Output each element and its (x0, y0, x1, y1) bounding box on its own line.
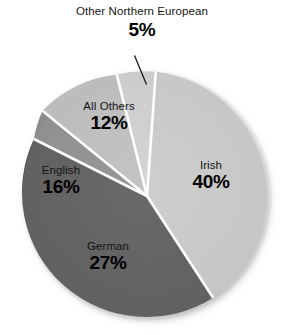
pie-slices-group (22, 71, 272, 320)
pie-chart-graphic (0, 0, 284, 335)
pie-chart: Other Northern European 5% All Others 12… (0, 0, 284, 335)
